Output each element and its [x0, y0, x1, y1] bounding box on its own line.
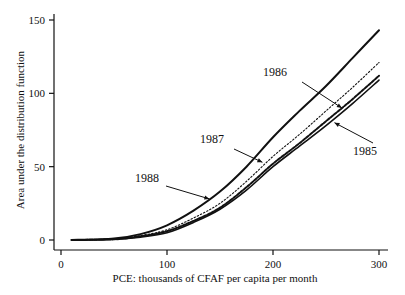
series-1986: [72, 76, 379, 240]
annotation-arrow-1988: [166, 186, 209, 199]
x-tick-label: 200: [265, 258, 282, 270]
x-tick-label: 0: [58, 258, 64, 270]
x-ticks: 0100200300: [58, 250, 388, 270]
y-tick-label: 50: [34, 161, 46, 173]
x-tick-label: 300: [371, 258, 388, 270]
arrowhead-icon: [337, 103, 342, 108]
annotation-1988: 1988: [135, 171, 159, 185]
arrowhead-icon: [204, 195, 209, 199]
series-1985: [72, 80, 379, 240]
annotation-1987: 1987: [200, 132, 224, 146]
y-axis-label: Area under the distribution function: [14, 50, 26, 209]
y-tick-label: 100: [29, 87, 46, 99]
x-tick-label: 100: [159, 258, 176, 270]
chart: 050100150 0100200300 1988198719861985 PC…: [0, 0, 405, 295]
annotation-arrow-1985: [334, 123, 373, 143]
series-1987: [72, 63, 379, 241]
series-1988: [72, 30, 379, 240]
y-ticks: 050100150: [29, 14, 55, 246]
annotation-1985: 1985: [353, 144, 377, 158]
annotation-1986: 1986: [263, 65, 287, 79]
series-lines: [72, 30, 379, 240]
x-axis-label: PCE: thousands of CFAF per capita per mo…: [113, 272, 318, 284]
y-tick-label: 0: [40, 234, 46, 246]
y-tick-label: 150: [29, 14, 46, 26]
